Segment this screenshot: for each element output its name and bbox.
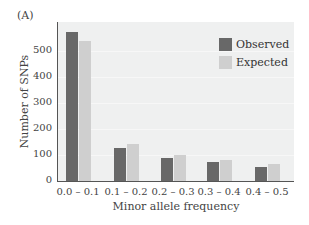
x-tick-label: 0.0 – 0.1: [53, 186, 103, 197]
legend-item-observed: Observed: [219, 35, 289, 53]
expected-swatch-icon: [219, 56, 232, 69]
bar-expected: [79, 41, 91, 181]
x-tick-label: 0.4 – 0.5: [242, 186, 292, 197]
bar-expected: [268, 164, 280, 181]
x-tick-label: 0.1 – 0.2: [101, 186, 151, 197]
legend-label: Observed: [236, 38, 289, 51]
x-tick-label: 0.2 – 0.3: [148, 186, 198, 197]
gridline: [58, 129, 294, 130]
gridline: [58, 77, 294, 78]
x-tick-label: 0.3 – 0.4: [194, 186, 244, 197]
bar-observed: [66, 32, 78, 181]
x-axis-line: [57, 181, 294, 182]
gridline: [58, 103, 294, 104]
y-tick-label: 0: [22, 174, 52, 185]
legend: Observed Expected: [219, 35, 289, 71]
bar-expected: [174, 155, 186, 181]
y-axis-label: Number of SNPs: [18, 52, 31, 152]
y-axis-line: [57, 22, 58, 182]
bar-expected: [220, 160, 232, 181]
bar-observed: [207, 162, 219, 181]
panel-label: (A): [17, 9, 34, 22]
bar-observed: [255, 167, 267, 181]
bar-observed: [161, 158, 173, 181]
bar-expected: [127, 144, 139, 181]
x-axis-label: Minor allele frequency: [58, 200, 294, 213]
legend-label: Expected: [236, 56, 288, 69]
bar-observed: [114, 148, 126, 181]
observed-swatch-icon: [219, 38, 232, 51]
legend-item-expected: Expected: [219, 53, 289, 71]
